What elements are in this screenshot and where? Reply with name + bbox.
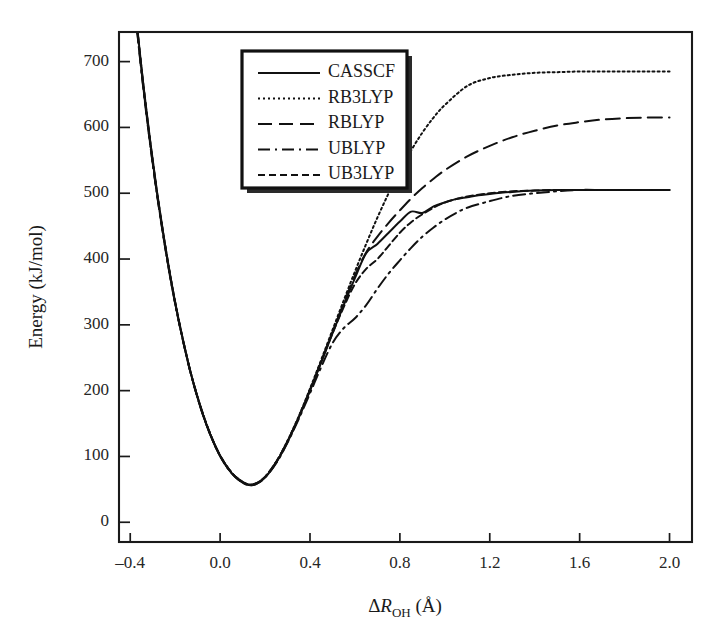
- legend-label-ub3lyp: UB3LYP: [328, 163, 394, 183]
- x-tick-label: 0.4: [299, 553, 321, 572]
- x-tick-label: 1.6: [569, 553, 590, 572]
- x-tick-label: 2.0: [659, 553, 680, 572]
- y-tick-label: 600: [84, 116, 110, 135]
- potential-energy-curve-figure: –0.40.00.40.81.21.62.0 01002003004005006…: [0, 0, 723, 643]
- x-tick-label: –0.4: [114, 553, 145, 572]
- chart-canvas: –0.40.00.40.81.21.62.0 01002003004005006…: [0, 0, 723, 643]
- y-tick-label: 700: [84, 51, 110, 70]
- y-axis-title: Energy (kJ/mol): [25, 225, 47, 349]
- legend-label-rb3lyp: RB3LYP: [328, 87, 393, 107]
- y-tick-label: 500: [84, 182, 110, 201]
- y-tick-label: 0: [101, 511, 110, 530]
- chart-legend: CASSCFRB3LYPRBLYPUBLYPUB3LYP: [242, 51, 412, 193]
- y-tick-label: 300: [84, 314, 110, 333]
- legend-label-ublyp: UBLYP: [328, 138, 385, 158]
- legend-label-casscf: CASSCF: [328, 61, 395, 81]
- y-tick-label: 100: [84, 445, 110, 464]
- x-axis-title-delta: Δ: [368, 595, 380, 616]
- x-axis-title-subscript: OH: [392, 605, 411, 620]
- y-tick-label: 400: [84, 248, 110, 267]
- x-tick-label: 0.8: [389, 553, 410, 572]
- x-tick-label: 0.0: [209, 553, 230, 572]
- x-tick-label: 1.2: [479, 553, 500, 572]
- legend-label-rblyp: RBLYP: [328, 112, 384, 132]
- y-axis-title-text: Energy (kJ/mol): [25, 225, 47, 349]
- y-tick-label: 200: [84, 380, 110, 399]
- x-axis-title-unit: (Å): [415, 595, 441, 617]
- x-axis-title-symbol: R: [379, 595, 392, 616]
